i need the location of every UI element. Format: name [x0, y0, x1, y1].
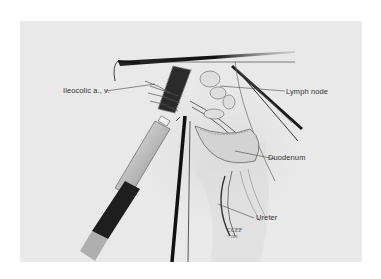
illustration-frame: Ileocolic a., v. Lymph node Duodenum Ure…	[20, 21, 362, 262]
copyright-year: © 1996	[227, 235, 238, 239]
label-lymph-node: Lymph node	[286, 87, 328, 96]
label-ureter: Ureter	[256, 213, 277, 222]
label-duodenum: Duodenum	[268, 153, 306, 162]
label-ileocolic: Ileocolic a., v.	[63, 86, 109, 95]
artist-signature: CCEF	[227, 227, 242, 233]
leader-lines	[20, 21, 362, 262]
